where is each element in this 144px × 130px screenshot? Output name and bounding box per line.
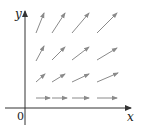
- vector-arrows: [36, 13, 118, 98]
- vector-arrow: [72, 47, 89, 60]
- vector-arrow: [36, 13, 44, 33]
- vector-arrow: [36, 74, 45, 82]
- y-axis-label: y: [14, 7, 22, 21]
- vector-arrow: [52, 74, 65, 82]
- x-axis-label: x: [127, 110, 134, 124]
- origin-label: 0: [17, 110, 24, 123]
- vector-arrow: [72, 13, 89, 33]
- vector-arrow: [36, 46, 44, 61]
- vector-arrow: [97, 73, 118, 82]
- vector-field-diagram: y x 0: [0, 0, 144, 130]
- vector-arrow: [97, 48, 117, 60]
- vector-arrow: [72, 74, 89, 82]
- vector-arrow: [97, 13, 117, 33]
- vector-arrow: [52, 13, 65, 33]
- vector-arrow: [52, 47, 65, 60]
